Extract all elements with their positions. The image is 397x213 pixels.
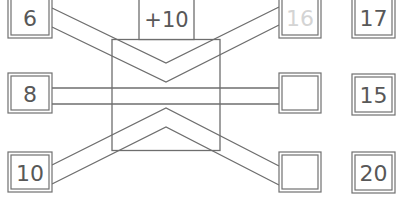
output-box-2[interactable] (279, 73, 321, 113)
output-value-1: 16 (286, 6, 314, 31)
function-machine-diagram: +10 6 8 10 16 17 15 (0, 0, 397, 213)
machine-body (112, 40, 220, 151)
input-value-2: 8 (23, 82, 37, 107)
choice-value-1: 17 (360, 6, 388, 31)
choice-box-2[interactable]: 15 (352, 74, 395, 115)
output-box-1[interactable]: 16 (279, 0, 321, 38)
choice-value-3: 20 (360, 161, 388, 186)
output-box-3[interactable] (279, 152, 321, 192)
path-bottom-upper (52, 108, 279, 166)
input-value-3: 10 (16, 161, 44, 186)
operation-label: +10 (144, 8, 188, 32)
input-box-2: 8 (8, 73, 52, 113)
choice-value-2: 15 (360, 83, 388, 108)
input-value-1: 6 (23, 6, 37, 31)
input-box-3: 10 (8, 152, 52, 192)
choice-box-3[interactable]: 20 (352, 152, 395, 193)
path-bottom-lower (52, 127, 279, 185)
input-box-1: 6 (8, 0, 52, 38)
choice-box-1[interactable]: 17 (352, 0, 395, 38)
operation-box: +10 (139, 0, 194, 40)
